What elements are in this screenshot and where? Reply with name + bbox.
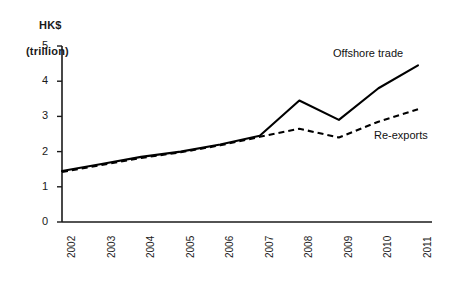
line-chart: HK$ (trillion) 012345 200220032004200520… — [0, 0, 450, 282]
series-line-re-exports — [62, 109, 418, 172]
series-line-offshore-trade — [62, 65, 418, 171]
series-label-re-exports: Re-exports — [374, 129, 428, 141]
data-series-group — [62, 65, 418, 172]
series-label-offshore-trade: Offshore trade — [333, 47, 403, 59]
plot-area — [0, 0, 450, 282]
